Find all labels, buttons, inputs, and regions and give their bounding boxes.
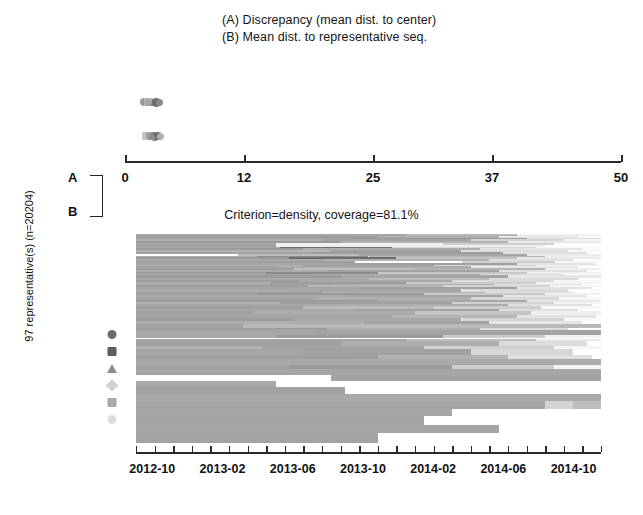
title-line-a: (A) Discrepancy (mean dist. to center) (222, 12, 436, 29)
circle-marker-icon (108, 330, 117, 339)
bottom-axis-line (136, 452, 601, 454)
dot-cluster-a (125, 96, 621, 110)
axis-tick (527, 446, 528, 452)
sequence-segment (136, 401, 545, 409)
sequence-segment (424, 416, 601, 425)
sequence-row (136, 401, 601, 409)
axis-tick (192, 446, 193, 452)
axis-tick (248, 446, 249, 452)
sequence-segment (452, 409, 601, 416)
representative-marker-column (102, 330, 122, 430)
triangle-marker-icon (107, 364, 117, 373)
triangle-marker-icon (147, 133, 157, 140)
axis-tick-label: 50 (614, 170, 628, 185)
axis-tick (492, 155, 494, 162)
circle-marker-icon (108, 415, 117, 424)
axis-tick (322, 446, 323, 452)
axis-tick (378, 446, 379, 452)
axis-tick (471, 446, 472, 452)
axis-tick (452, 446, 453, 452)
bottom-axis-tick-labels: 2012-102013-022013-062013-102014-022014-… (0, 462, 643, 484)
sequence-segment (499, 425, 601, 433)
sequence-segment (345, 387, 601, 394)
axis-tick-label: 37 (485, 170, 499, 185)
circle-marker-icon (156, 99, 163, 106)
sequence-segment (136, 387, 345, 394)
axis-tick-label: 2013-10 (340, 462, 386, 476)
axis-tick (266, 446, 267, 452)
axis-tick (341, 446, 342, 452)
sequence-row (136, 425, 601, 433)
axis-tick (244, 155, 246, 162)
axis-tick-label: 0 (121, 170, 128, 185)
axis-tick-label: 2014-02 (410, 462, 456, 476)
axis-tick-label: 2014-06 (480, 462, 526, 476)
axis-tick (229, 446, 230, 452)
figure-title: (A) Discrepancy (mean dist. to center) (… (222, 12, 436, 46)
axis-tick (373, 155, 375, 162)
axis-tick-label: 2013-02 (200, 462, 246, 476)
axis-tick-label: 2012-10 (129, 462, 175, 476)
axis-tick (136, 446, 137, 452)
sequence-row (136, 409, 601, 416)
axis-tick-label: 25 (366, 170, 380, 185)
axis-tick (173, 446, 174, 452)
sequence-segment (136, 416, 424, 425)
sequence-index-plot (136, 234, 601, 443)
axis-tick (303, 446, 304, 452)
axis-tick (125, 155, 127, 162)
axis-tick (415, 446, 416, 452)
square-marker-icon (108, 398, 117, 407)
axis-tick (434, 446, 435, 452)
dot-cluster-b (125, 130, 621, 144)
square-marker-icon (108, 347, 117, 356)
axis-tick (210, 446, 211, 452)
sequence-segment (136, 425, 499, 433)
axis-tick (564, 446, 565, 452)
axis-tick (489, 446, 490, 452)
axis-tick (621, 155, 623, 162)
title-line-b: (B) Mean dist. to representative seq. (222, 29, 436, 46)
panel-subtitle: Criterion=density, coverage=81.1% (0, 208, 643, 222)
sequence-row (136, 433, 601, 443)
axis-tick (396, 446, 397, 452)
top-axis-tick-labels: 012253750 (0, 170, 643, 190)
axis-tick-label: 2014-10 (551, 462, 597, 476)
axis-tick-label: 12 (237, 170, 251, 185)
axis-tick (508, 446, 509, 452)
diamond-marker-icon (106, 379, 119, 392)
axis-tick (582, 446, 583, 452)
figure-root: (A) Discrepancy (mean dist. to center) (… (0, 0, 643, 515)
sequence-segment (573, 401, 601, 409)
top-axis-line (125, 161, 621, 163)
sequence-segment (136, 433, 378, 443)
sequence-segment (545, 401, 573, 409)
sequence-row (136, 387, 601, 394)
axis-tick (285, 446, 286, 452)
sequence-segment (378, 433, 601, 443)
sequence-segment (136, 409, 452, 416)
sequence-row (136, 416, 601, 425)
axis-tick (545, 446, 546, 452)
axis-tick (359, 446, 360, 452)
axis-tick (601, 446, 602, 452)
axis-tick (155, 446, 156, 452)
axis-tick-label: 2013-06 (270, 462, 316, 476)
